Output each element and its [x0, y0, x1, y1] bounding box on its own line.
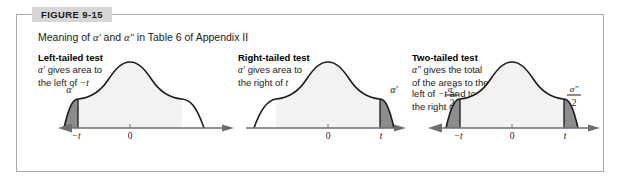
caption-prefix: Meaning of — [38, 31, 93, 43]
caption-and: and — [101, 31, 124, 43]
tail-label-alpha-left: α′ — [66, 84, 74, 95]
chart-right-tailed: 0 t α′ — [238, 58, 408, 144]
axis-arrow-right-middle-icon — [394, 125, 406, 132]
axis-arrow-right-icon — [222, 125, 234, 132]
tail-label-alpha-middle: α′ — [390, 84, 398, 95]
tail-label-left-numerator: α″ — [448, 84, 457, 94]
axis-label-neg-t-left: −t — [71, 131, 80, 141]
caption-suffix: in Table 6 of Appendix II — [134, 31, 248, 43]
figure-number-tab: FIGURE 9-15 — [32, 7, 112, 22]
axis-label-neg-t-right: −t — [453, 131, 462, 141]
tail-label-left-denominator: 2 — [450, 98, 455, 108]
axis-label-t-middle: t — [380, 131, 383, 141]
tail-label-right-denominator: 2 — [572, 98, 577, 108]
axis-arrow-right-right-icon — [588, 125, 600, 132]
caption-alpha-prime: α′ — [93, 32, 101, 43]
chart-two-tailed: −t 0 t α″ 2 α″ 2 — [412, 58, 602, 144]
axis-arrow-left-right-icon — [428, 124, 442, 133]
shaded-tail-left — [64, 99, 78, 128]
figure-caption: Meaning of α′ and α″ in Table 6 of Appen… — [38, 31, 248, 43]
chart-left-tailed: −t 0 α′ — [56, 58, 236, 144]
axis-label-zero-right: 0 — [510, 131, 515, 141]
axis-label-t-right: t — [564, 131, 567, 141]
tail-label-right-numerator: α″ — [570, 84, 579, 94]
axis-label-zero-left: 0 — [128, 131, 133, 141]
shaded-tail-middle — [380, 99, 394, 128]
caption-alpha-double-prime: α″ — [124, 32, 134, 43]
figure-number-label: FIGURE 9-15 — [41, 9, 103, 20]
axis-label-zero-middle: 0 — [326, 131, 331, 141]
